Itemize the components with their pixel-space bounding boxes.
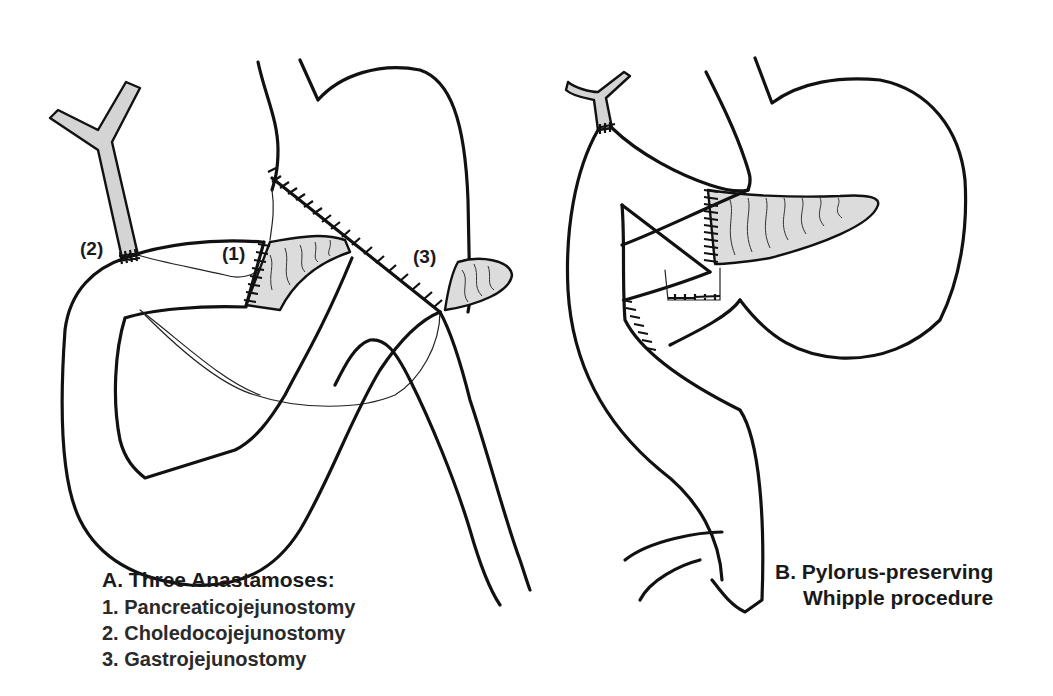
loop-inner-thread: [140, 310, 260, 395]
duodenum-upper: [612, 128, 748, 191]
jejunal-loop-inner: [115, 258, 352, 478]
jejunum-descending-right: [440, 312, 530, 590]
panel-a-illustration: [50, 60, 530, 605]
stomach-lower-curve: [145, 312, 440, 406]
esophagus-b-left: [706, 72, 750, 190]
marker-3: (3): [413, 246, 436, 268]
panel-b-title-line1: B. Pylorus-preserving: [775, 560, 993, 584]
gastric-outlet: [625, 272, 740, 345]
stomach-inner-curve: [270, 190, 273, 240]
marker-2: (2): [80, 238, 103, 260]
stomach-outline: [300, 60, 470, 312]
pancreas-b: [708, 190, 878, 264]
caption-item-1: 1. Pancreaticojejunostomy: [102, 596, 355, 619]
jejunum-b-right: [622, 205, 763, 612]
caption-item-2: 2. Choledocojejunostomy: [102, 622, 345, 645]
figure: (2) (1) (3) A. Three Anastamoses: 1. Pan…: [0, 0, 1053, 696]
jejunum-b-exit: [625, 532, 722, 600]
caption-item-3: 3. Gastrojejunostomy: [102, 648, 307, 671]
pancreas-tail: [445, 259, 512, 310]
bile-duct-b: [566, 72, 630, 130]
marker-1: (1): [222, 243, 245, 265]
panel-b-illustration: [566, 58, 966, 612]
panel-b-title-line2: Whipple procedure: [803, 586, 993, 610]
jejunum-descending: [335, 340, 500, 605]
bile-duct: [50, 82, 140, 258]
jejunum-b-left: [567, 130, 722, 580]
panel-a-title: A. Three Anastamoses:: [102, 568, 335, 592]
